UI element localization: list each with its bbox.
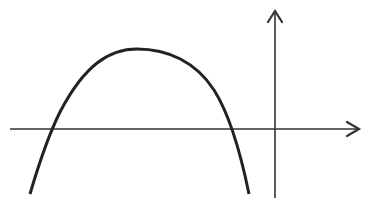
- function-curve: [30, 49, 249, 194]
- diagram-canvas: [0, 0, 373, 218]
- x-axis: [10, 122, 359, 136]
- y-axis: [268, 11, 282, 198]
- function-graph: [0, 0, 373, 218]
